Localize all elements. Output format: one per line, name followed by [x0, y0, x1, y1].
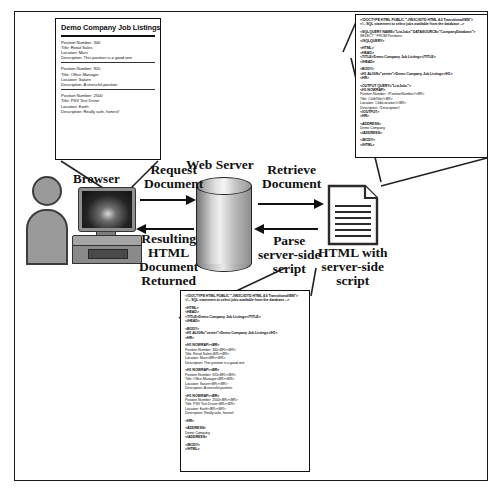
- request-document-arrow-head: [186, 195, 196, 205]
- job-description: Description: Really safe, honest!: [61, 109, 155, 114]
- code-line: </HTML>: [185, 447, 305, 451]
- divider: [61, 35, 155, 37]
- code-line: </HTML>: [360, 143, 483, 147]
- html-document-icon: [327, 184, 379, 246]
- code-line: <!-- SQL statement to select jobs availa…: [185, 298, 305, 302]
- request-document-label: Request Document: [144, 163, 203, 191]
- user-person-body-icon: [26, 209, 68, 265]
- job-listing-item: Position Number: 2500 Title: PSV Test Dr…: [61, 93, 155, 114]
- retrieve-document-arrow-line: [258, 203, 316, 205]
- job-description: Description: A stressful position: [61, 82, 155, 87]
- monitor-screen: [82, 191, 132, 228]
- cylinder-mask: [197, 254, 251, 264]
- page-title: Demo Company Job Listings: [61, 23, 155, 32]
- user-person-icon: [32, 176, 62, 206]
- retrieve-document-arrow-head: [314, 199, 324, 209]
- request-document-arrow-line: [140, 199, 188, 201]
- divider: [61, 62, 155, 63]
- job-description: Description: This position is a good one: [61, 55, 155, 60]
- browser-label: Browser: [73, 172, 120, 186]
- cylinder-top: [196, 177, 252, 195]
- job-listing-item: Position Number: 340 Title: Retail Sales…: [61, 40, 155, 61]
- parse-script-arrow-head: [254, 224, 264, 234]
- retrieve-document-label: Retrieve Document: [262, 163, 321, 191]
- resulting-html-document-returned-label: Resulting HTML Document Returned: [139, 232, 198, 288]
- divider: [61, 89, 155, 90]
- parse-server-side-script-label: Parse server-side script: [258, 234, 320, 276]
- job-listing-item: Position Number: 920 Title: Office Manag…: [61, 66, 155, 87]
- web-architecture-diagram: Demo Company Job Listings Position Numbe…: [0, 0, 504, 496]
- parse-script-arrow-line: [264, 228, 318, 230]
- database-cylinder-icon: [196, 186, 252, 264]
- server-side-source-code-box: <!DOCTYPE HTML PUBLIC "-//W3C//DTD HTML …: [355, 14, 488, 158]
- html-with-server-side-script-label: HTML with server-side script: [318, 246, 387, 288]
- resulting-html-source-code-box: <!DOCTYPE HTML PUBLIC "-//W3C//DTD HTML …: [180, 290, 310, 472]
- drive-slot: [88, 249, 128, 259]
- browser-rendered-page: Demo Company Job Listings Position Numbe…: [55, 18, 161, 160]
- desktop-computer-icon: [78, 187, 136, 232]
- resulting-html-arrow-line: [146, 228, 194, 230]
